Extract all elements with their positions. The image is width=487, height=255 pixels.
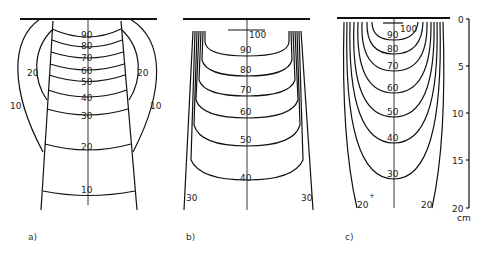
label-60-c: 60 — [387, 83, 399, 93]
panel-a: 90 80 70 60 50 40 30 20 10 20 20 10 10 a… — [10, 19, 162, 242]
label-20-left-a: 20 — [27, 68, 39, 78]
label-90-a: 90 — [81, 30, 93, 40]
label-60-b: 60 — [240, 107, 252, 117]
axis-tick-15: 15 — [452, 156, 463, 166]
label-60-a: 60 — [81, 66, 93, 76]
label-70-b: 70 — [240, 85, 252, 95]
label-10-right-a: 10 — [150, 101, 162, 111]
label-10-a: 10 — [81, 185, 93, 195]
caption-a: a) — [28, 232, 37, 242]
label-70-a: 70 — [81, 53, 93, 63]
axis-tick-5: 5 — [458, 62, 464, 72]
axis-tick-10: 10 — [452, 109, 464, 119]
label-50-b: 50 — [240, 135, 252, 145]
label-40-a: 40 — [81, 93, 93, 103]
label-80-a: 80 — [81, 41, 93, 51]
label-90-c: 90 — [387, 30, 399, 40]
label-20-right-c: 20 — [421, 200, 433, 210]
field-edge-left-a — [41, 21, 53, 210]
panel-b: 100 90 80 70 60 50 40 30 30 b) — [183, 19, 313, 242]
axis-tick-0: 0 — [458, 15, 464, 25]
label-30-a: 30 — [81, 111, 93, 121]
label-80-b: 80 — [240, 65, 252, 75]
label-20-right-a: 20 — [137, 68, 149, 78]
axis-unit: cm — [457, 213, 471, 223]
caption-b: b) — [186, 232, 195, 242]
panel-c: 100 90 80 70 60 50 40 30 20 20 + c) — [337, 18, 450, 242]
svg-text:+: + — [369, 192, 375, 200]
isodose-10-right — [130, 19, 157, 152]
isodose-30-right-b — [301, 31, 313, 210]
label-30-right-b: 30 — [301, 193, 313, 203]
caption-c: c) — [345, 232, 353, 242]
depth-axis: 0 5 10 15 20 cm — [452, 15, 471, 223]
label-90-b: 90 — [240, 45, 252, 55]
label-40-b: 40 — [240, 173, 252, 183]
label-10-left-a: 10 — [10, 101, 22, 111]
label-50-c: 50 — [387, 107, 399, 117]
label-40-c: 40 — [387, 133, 399, 143]
label-80-c: 80 — [387, 44, 399, 54]
label-20-left-c: 20 — [357, 200, 369, 210]
label-20-a: 20 — [81, 142, 93, 152]
label-100-b: 100 — [249, 30, 266, 40]
label-30-c: 30 — [387, 169, 399, 179]
label-70-c: 70 — [387, 61, 399, 71]
isodose-figure: 90 80 70 60 50 40 30 20 10 20 20 10 10 a… — [0, 0, 487, 255]
label-30-left-b: 30 — [186, 193, 198, 203]
label-50-a: 50 — [81, 77, 93, 87]
